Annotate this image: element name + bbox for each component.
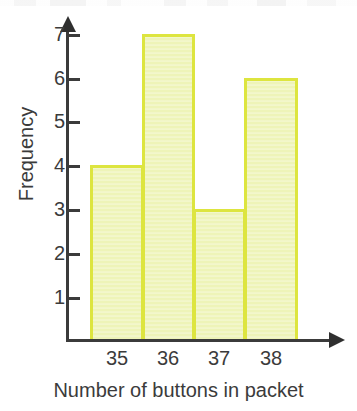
y-tick-label-6: 6 [41, 68, 65, 88]
bar-37 [193, 209, 246, 342]
y-tick-label-4: 4 [41, 155, 65, 175]
x-tick-label-36: 36 [143, 346, 193, 370]
y-tick-label-1: 1 [41, 287, 65, 307]
y-tick-mark-7 [69, 34, 80, 37]
x-tick-label-37: 37 [194, 346, 244, 370]
y-tick-mark-4 [69, 165, 80, 168]
y-tick-mark-2 [69, 253, 80, 256]
y-tick-label-5: 5 [41, 111, 65, 131]
y-tick-mark-3 [69, 209, 80, 212]
x-axis-arrow-icon [329, 332, 345, 348]
y-tick-mark-5 [69, 121, 80, 124]
y-tick-mark-1 [69, 297, 80, 300]
bar-38 [244, 78, 298, 342]
y-axis-line [66, 30, 69, 342]
bar-35 [90, 165, 144, 342]
x-axis-title: Number of buttons in packet [0, 378, 357, 402]
y-tick-mark-6 [69, 78, 80, 81]
x-axis-line [66, 339, 332, 342]
y-tick-label-3: 3 [41, 199, 65, 219]
y-tick-label-2: 2 [41, 243, 65, 263]
x-tick-label-35: 35 [92, 346, 142, 370]
x-tick-label-38: 38 [246, 346, 296, 370]
y-axis-title: Frequency [14, 74, 38, 234]
histogram-chart: 7 6 5 4 3 2 1 35 36 37 38 Frequency Numb… [0, 0, 357, 411]
plot-area: 7 6 5 4 3 2 1 35 36 37 38 Frequency Numb… [0, 0, 357, 411]
bar-36 [142, 34, 195, 342]
y-tick-label-7: 7 [41, 24, 65, 44]
